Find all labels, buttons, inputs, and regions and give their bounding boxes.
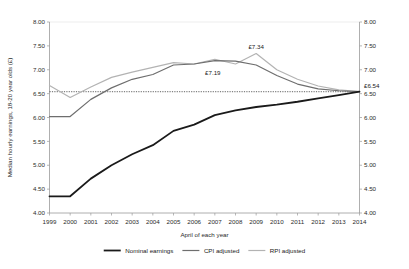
x-tick-label: 2008 (229, 218, 243, 225)
reference-line-label: £6.54 (364, 82, 380, 89)
line-chart: 4.004.004.504.505.005.005.505.506.006.00… (0, 0, 409, 269)
x-tick-label: 2004 (146, 218, 160, 225)
y-tick-label-left: 6.50 (33, 90, 46, 97)
x-tick-label: 2009 (249, 218, 263, 225)
chart-container: 4.004.004.504.505.005.005.505.506.006.00… (0, 0, 409, 269)
x-tick-label: 2011 (291, 218, 305, 225)
y-tick-label-left: 5.00 (33, 161, 46, 168)
x-tick-label: 2002 (105, 218, 119, 225)
y-tick-label-left: 4.00 (33, 209, 46, 216)
x-tick-label: 2005 (167, 218, 181, 225)
y-tick-label-right: 4.50 (364, 185, 377, 192)
y-tick-label-left: 5.50 (33, 138, 46, 145)
y-tick-label-right: 6.00 (364, 114, 377, 121)
series-line-nominal-earnings (50, 92, 360, 197)
y-tick-label-left: 6.00 (33, 114, 46, 121)
legend-label-nominal-earnings: Nominal earnings (125, 247, 173, 254)
y-tick-label-right: 6.50 (364, 90, 377, 97)
y-axis-title: Median hourly earnings, 18-20 year olds … (6, 58, 13, 178)
y-tick-label-right: 5.00 (364, 161, 377, 168)
x-tick-label: 2007 (208, 218, 222, 225)
y-tick-label-right: 4.00 (364, 209, 377, 216)
data-annotation: £7.34 (248, 43, 264, 50)
y-tick-label-left: 8.00 (33, 18, 46, 25)
x-tick-label: 2012 (311, 218, 325, 225)
y-tick-label-left: 7.00 (33, 66, 46, 73)
legend-label-rpi-adjusted: RPI adjusted (270, 247, 306, 254)
y-tick-label-right: 5.50 (364, 138, 377, 145)
data-annotation: £7.19 (205, 69, 221, 76)
x-tick-label: 2014 (353, 218, 367, 225)
x-axis-title: April of each year (180, 231, 228, 238)
y-tick-label-right: 7.00 (364, 66, 377, 73)
y-tick-label-left: 7.50 (33, 42, 46, 49)
legend-label-cpi-adjusted: CPI adjusted (204, 247, 240, 254)
x-tick-label: 2003 (125, 218, 139, 225)
y-tick-label-right: 7.50 (364, 42, 377, 49)
y-tick-label-left: 4.50 (33, 185, 46, 192)
y-tick-label-right: 8.00 (364, 18, 377, 25)
x-tick-label: 2006 (187, 218, 201, 225)
x-tick-label: 2000 (63, 218, 77, 225)
x-tick-label: 2001 (84, 218, 98, 225)
x-tick-label: 2010 (270, 218, 284, 225)
x-tick-label: 1999 (43, 218, 57, 225)
x-tick-label: 2013 (332, 218, 346, 225)
